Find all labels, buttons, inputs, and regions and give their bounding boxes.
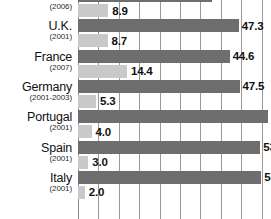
- bar-value-label: 2.0: [89, 186, 104, 198]
- bar-dark: [78, 110, 268, 123]
- bar-dark: [78, 171, 261, 184]
- category-year: (2001): [0, 155, 72, 163]
- category-year: (2001): [0, 185, 72, 193]
- bar-value-label: 53.6: [263, 141, 271, 153]
- bar-dark: [78, 80, 240, 93]
- bar-value-label: 3.0: [92, 156, 107, 168]
- category-label: Germany(2001-2003): [0, 81, 72, 103]
- bar-light: [78, 186, 85, 199]
- category-label: U.K.(2001): [0, 20, 72, 42]
- bar-chart: Canada(2006)U.K.(2001)France(2007)German…: [0, 0, 271, 219]
- bar-value-label: 14.4: [131, 65, 153, 77]
- bar-value-label: 8.9: [112, 5, 127, 17]
- bar-value-label: 53.9: [264, 171, 271, 183]
- category-label: Spain(2001): [0, 142, 72, 164]
- category-label: Portugal(2001): [0, 111, 72, 133]
- category-year: (2001): [0, 33, 72, 41]
- bar-light: [78, 95, 96, 108]
- category-year: (2001-2003): [0, 94, 72, 102]
- bar-value-label: 5.3: [100, 95, 115, 107]
- bar-value-label: 39.3: [215, 0, 237, 2]
- category-label-column: Canada(2006)U.K.(2001)France(2007)German…: [0, 0, 76, 219]
- category-label: France(2007): [0, 51, 72, 73]
- category-year: (2006): [0, 3, 72, 11]
- bar-dark: [78, 19, 239, 32]
- bar-value-label: 47.3: [242, 20, 264, 32]
- category-year: (2001): [0, 124, 72, 132]
- category-name: Italy: [0, 172, 72, 185]
- bar-value-label: 8.7: [112, 35, 127, 47]
- plot-area: 39.38.947.38.744.614.447.55.3564.053.63.…: [78, 0, 271, 219]
- category-label: Canada(2006): [0, 0, 72, 12]
- category-year: (2007): [0, 64, 72, 72]
- bar-light: [78, 34, 108, 47]
- category-name: Spain: [0, 142, 72, 155]
- category-name: France: [0, 51, 72, 64]
- bar-dark: [78, 0, 212, 2]
- bar-light: [78, 156, 88, 169]
- bar-light: [78, 125, 92, 138]
- category-label: Italy(2001): [0, 172, 72, 194]
- bar-value-label: 47.5: [243, 80, 265, 92]
- bar-dark: [78, 141, 260, 154]
- bar-value-label: 4.0: [96, 126, 111, 138]
- bar-light: [78, 65, 127, 78]
- bar-dark: [78, 50, 230, 63]
- bar-value-label: 44.6: [233, 50, 255, 62]
- bar-light: [78, 4, 108, 17]
